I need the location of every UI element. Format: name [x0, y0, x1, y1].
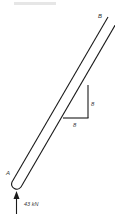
force-arrow	[14, 191, 20, 214]
label-slope-vertical: 8	[91, 101, 94, 107]
label-end-b: B	[98, 13, 102, 19]
label-end-a: A	[6, 170, 10, 176]
inclined-bar	[12, 17, 115, 189]
label-force: 43 kN	[24, 202, 38, 208]
label-slope-horizontal: 8	[73, 122, 76, 128]
slope-triangle	[63, 85, 89, 118]
diagram-canvas	[0, 0, 115, 217]
